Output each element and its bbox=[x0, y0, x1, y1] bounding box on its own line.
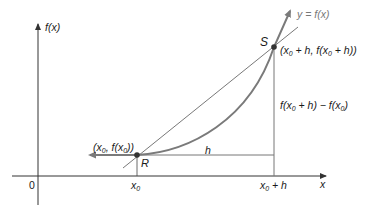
x0-plus-h-tick-label: x0 + h bbox=[260, 180, 287, 192]
x-axis-label: x bbox=[320, 179, 325, 190]
point-R-label: R bbox=[141, 158, 149, 169]
rise-label: f(x0 + h) − f(x0) bbox=[280, 100, 348, 112]
curve-label: y = f(x) bbox=[297, 9, 329, 20]
point-S-dot bbox=[271, 44, 277, 50]
point-R-dot bbox=[134, 152, 140, 158]
function-curve-upper bbox=[137, 11, 290, 155]
h-label: h bbox=[205, 145, 211, 156]
origin-label: 0 bbox=[29, 180, 35, 191]
point-R-coords: (x0, f(x0)) bbox=[93, 142, 134, 154]
x0-tick-label: x0 bbox=[131, 180, 140, 192]
point-S-coords: (x0 + h, f(x0 + h)) bbox=[280, 45, 357, 57]
y-axis-label: f(x) bbox=[45, 22, 60, 33]
point-S-label: S bbox=[260, 36, 268, 48]
